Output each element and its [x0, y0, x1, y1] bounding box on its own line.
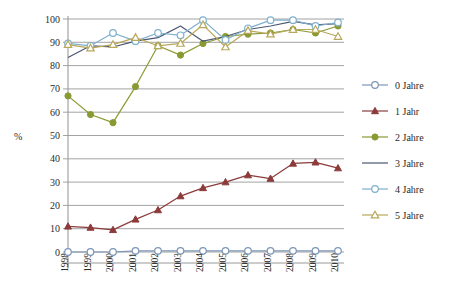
series-point-marker	[87, 111, 93, 117]
legend-item-label: 0 Jahre	[395, 80, 424, 91]
series-point-marker	[177, 32, 184, 39]
series-point-marker	[65, 249, 72, 256]
x-tick-label: 2007	[263, 253, 273, 272]
legend-item-1-jahr[interactable]: 1 Jahr	[362, 106, 420, 117]
y-tick-label: 20	[50, 200, 60, 211]
series-point-marker	[222, 248, 229, 255]
legend-item-label: 5 Jahre	[395, 210, 424, 221]
y-tick-label: 60	[50, 107, 60, 118]
y-tick-label: 100	[45, 14, 60, 25]
legend-swatch-marker	[372, 186, 379, 193]
series-point-marker	[335, 248, 342, 255]
series-point-marker	[132, 248, 139, 255]
series-point-marker	[155, 248, 162, 255]
legend-item-0-jahre[interactable]: 0 Jahre	[362, 80, 424, 91]
legend-item-label: 1 Jahr	[395, 106, 420, 117]
series-point-marker	[110, 249, 117, 256]
legend-item-4-jahre[interactable]: 4 Jahre	[362, 184, 424, 195]
y-tick-label: 10	[50, 223, 60, 234]
y-tick-label: 70	[50, 83, 60, 94]
series-point-marker	[155, 30, 162, 37]
series-point-marker	[110, 30, 117, 37]
series-point-marker	[65, 93, 71, 99]
series-point-marker	[132, 83, 138, 89]
series-point-marker	[155, 206, 162, 212]
legend-item-2-jahre[interactable]: 2 Jahre	[362, 132, 424, 143]
y-tick-label: 30	[50, 177, 60, 188]
series-point-marker	[132, 34, 139, 41]
series-point-marker	[312, 248, 319, 255]
y-tick-label: 40	[50, 153, 60, 164]
legend-item-label: 2 Jahre	[395, 132, 424, 143]
legend-swatch-marker	[372, 134, 378, 140]
x-tick-label: 2001	[128, 253, 138, 272]
legend: 0 Jahre1 Jahr2 Jahre3 Jahre4 Jahre5 Jahr…	[362, 80, 424, 221]
x-tick-label: 2003	[173, 253, 183, 272]
x-tick-label: 2009	[308, 253, 318, 272]
series-point-marker	[267, 248, 274, 255]
series-point-marker	[335, 19, 342, 26]
y-tick-label: 90	[50, 37, 60, 48]
series-line	[68, 162, 338, 230]
x-tick-label: 2005	[218, 253, 228, 272]
x-tick-label: 2010	[330, 253, 340, 272]
series-point-marker	[177, 52, 183, 58]
legend-item-label: 4 Jahre	[395, 184, 424, 195]
chart-canvas: 0102030405060708090100%19981999200020012…	[0, 0, 449, 297]
y-tick-label: 80	[50, 60, 60, 71]
x-tick-label: 2004	[195, 253, 205, 272]
series-point-marker	[177, 248, 184, 255]
legend-item-3-jahre[interactable]: 3 Jahre	[362, 158, 424, 169]
y-axis-unit-label: %	[14, 131, 22, 142]
legend-swatch-marker	[372, 82, 379, 89]
legend-item-5-jahre[interactable]: 5 Jahre	[362, 210, 424, 221]
series-1-jahr	[65, 159, 342, 233]
y-tick-label: 50	[50, 130, 60, 141]
series-point-marker	[245, 172, 252, 178]
line-chart: 0102030405060708090100%19981999200020012…	[0, 0, 449, 297]
series-point-marker	[290, 17, 297, 24]
series-point-marker	[200, 248, 207, 255]
legend-item-label: 3 Jahre	[395, 158, 424, 169]
x-tick-label: 2008	[285, 253, 295, 272]
series-point-marker	[245, 248, 252, 255]
series-point-marker	[110, 120, 116, 126]
series-point-marker	[290, 248, 297, 255]
x-axis-group: 1998199920002001200220032004200520062007…	[60, 253, 344, 272]
x-tick-label: 2002	[150, 253, 160, 272]
x-tick-label: 2006	[240, 253, 250, 272]
series-point-marker	[87, 249, 94, 256]
series-point-marker	[267, 17, 274, 24]
series-2-jahre	[65, 23, 341, 126]
